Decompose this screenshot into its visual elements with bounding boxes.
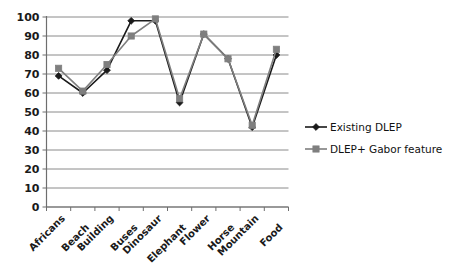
y-tick-label: 0 bbox=[32, 201, 40, 214]
legend-entry-label: Existing DLEP bbox=[330, 121, 402, 133]
data-point-square bbox=[128, 33, 134, 39]
y-tick-label: 40 bbox=[24, 125, 40, 138]
legend-entry-label: DLEP+ Gabor feature bbox=[330, 143, 442, 155]
data-point-square bbox=[201, 31, 207, 37]
y-tick-label: 70 bbox=[24, 68, 40, 81]
y-tick-label: 30 bbox=[24, 144, 40, 157]
data-point-square bbox=[80, 88, 86, 94]
y-tick-label: 60 bbox=[24, 87, 40, 100]
data-point-square bbox=[249, 122, 255, 128]
square-marker-icon bbox=[313, 146, 319, 152]
data-point-square bbox=[56, 65, 62, 71]
line-chart: 0102030405060708090100AfricansBeachBuild… bbox=[0, 0, 452, 270]
y-tick-label: 20 bbox=[24, 163, 40, 176]
chart-canvas: 0102030405060708090100AfricansBeachBuild… bbox=[0, 0, 452, 270]
y-tick-label: 90 bbox=[24, 30, 40, 43]
data-point-square bbox=[152, 16, 158, 22]
y-tick-label: 10 bbox=[24, 182, 40, 195]
y-tick-label: 100 bbox=[17, 11, 40, 24]
data-point-square bbox=[225, 56, 231, 62]
data-point-square bbox=[104, 61, 110, 67]
data-point-square bbox=[273, 46, 279, 52]
y-tick-label: 50 bbox=[24, 106, 40, 119]
data-point-square bbox=[177, 96, 183, 102]
y-tick-label: 80 bbox=[24, 49, 40, 62]
